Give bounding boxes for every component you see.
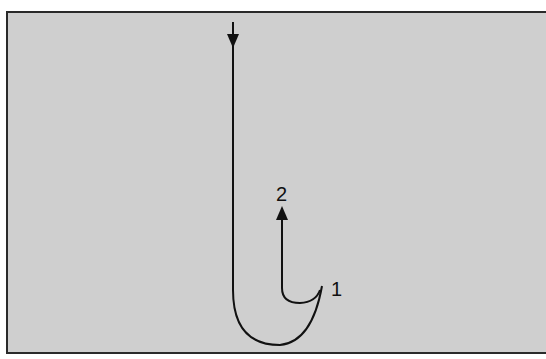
- label-point-2: 2: [276, 184, 287, 204]
- arrow-up-icon: [276, 206, 288, 220]
- return-path: [282, 215, 320, 303]
- label-point-1: 1: [331, 279, 342, 299]
- arrow-down-icon: [227, 34, 239, 48]
